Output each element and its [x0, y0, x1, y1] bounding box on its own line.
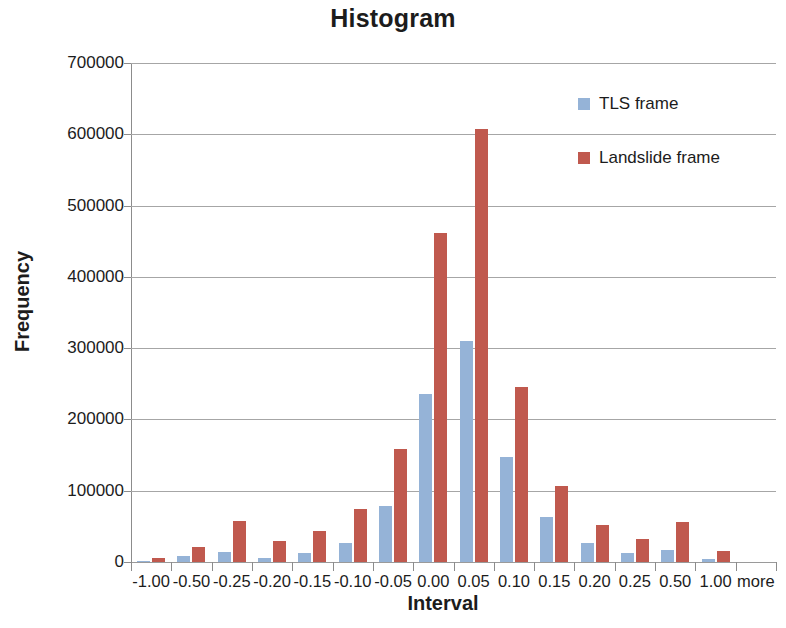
y-axis-tick-mark: [124, 348, 131, 349]
bar-landslide-frame: [515, 387, 528, 562]
bar-landslide-frame: [192, 547, 205, 562]
x-axis-tick-mark: [736, 562, 737, 571]
x-axis-tick-mark: [413, 562, 414, 571]
bar-tls-frame: [540, 517, 553, 562]
y-axis-tick-label: 700000: [28, 53, 124, 73]
x-axis-tick-mark: [534, 562, 535, 571]
x-axis-tick-mark: [333, 562, 334, 571]
bar-tls-frame: [460, 341, 473, 562]
bar-tls-frame: [339, 543, 352, 562]
bar-landslide-frame: [394, 449, 407, 562]
x-axis-tick-mark: [695, 562, 696, 571]
legend-label: Landslide frame: [599, 148, 720, 168]
x-axis-tick-mark: [776, 562, 777, 571]
bar-group: [494, 63, 534, 562]
x-axis-tick-label: 1.00: [699, 572, 731, 591]
bar-landslide-frame: [555, 486, 568, 562]
bar-group: [534, 63, 574, 562]
x-axis-tick-label: more: [737, 572, 775, 591]
y-axis-tick-mark: [124, 134, 131, 135]
y-axis-tick-mark: [124, 419, 131, 420]
y-axis-tick-label: 400000: [28, 267, 124, 287]
y-axis-tick-mark: [124, 562, 131, 563]
x-axis-tick-label: -0.50: [173, 572, 211, 591]
bar-landslide-frame: [717, 551, 730, 562]
bar-landslide-frame: [475, 129, 488, 562]
x-axis-tick-marks: [131, 562, 776, 572]
x-axis-tick-label: 0.20: [579, 572, 611, 591]
bar-landslide-frame: [354, 509, 367, 562]
bar-tls-frame: [621, 553, 634, 562]
x-axis-tick-mark: [373, 562, 374, 571]
x-axis-tick-mark: [131, 562, 132, 571]
y-axis-tick-label: 100000: [28, 481, 124, 501]
x-axis-tick-mark: [212, 562, 213, 571]
bar-landslide-frame: [313, 531, 326, 562]
y-axis-tick-labels: 0100000200000300000400000500000600000700…: [20, 63, 124, 562]
x-axis-tick-label: 0.10: [498, 572, 530, 591]
x-axis-tick-label: -0.05: [374, 572, 412, 591]
x-axis-tick-mark: [655, 562, 656, 571]
y-axis-tick-label: 0: [28, 552, 124, 572]
bar-group: [333, 63, 373, 562]
bar-group: [454, 63, 494, 562]
y-axis-tick-mark: [124, 206, 131, 207]
bar-tls-frame: [298, 553, 311, 562]
bar-landslide-frame: [636, 539, 649, 562]
x-axis-tick-mark: [454, 562, 455, 571]
bar-group: [171, 63, 211, 562]
x-axis-tick-mark: [252, 562, 253, 571]
y-axis-tick-mark: [124, 491, 131, 492]
y-axis-tick-mark: [124, 63, 131, 64]
x-axis-tick-mark: [615, 562, 616, 571]
legend-swatch-icon: [578, 152, 590, 164]
bar-tls-frame: [419, 394, 432, 562]
y-axis-tick-label: 300000: [28, 338, 124, 358]
bar-group: [373, 63, 413, 562]
x-axis-tick-mark: [574, 562, 575, 571]
bar-group: [212, 63, 252, 562]
chart-title: Histogram: [0, 4, 786, 33]
y-axis-tick-label: 600000: [28, 124, 124, 144]
histogram-chart: Histogram Frequency 01000002000003000004…: [0, 0, 786, 628]
x-axis-tick-label: 0.50: [659, 572, 691, 591]
bar-group: [413, 63, 453, 562]
bar-landslide-frame: [676, 522, 689, 562]
bar-group: [252, 63, 292, 562]
legend-label: TLS frame: [599, 94, 678, 114]
x-axis-tick-label: 0.05: [458, 572, 490, 591]
x-axis-tick-label: -0.25: [213, 572, 251, 591]
y-axis-tick-label: 200000: [28, 409, 124, 429]
bar-tls-frame: [581, 543, 594, 562]
y-axis-tick-mark: [124, 277, 131, 278]
bar-tls-frame: [218, 552, 231, 562]
bar-landslide-frame: [273, 541, 286, 562]
x-axis-tick-label: -1.00: [132, 572, 170, 591]
x-axis-tick-label: 0.00: [417, 572, 449, 591]
x-axis-title: Interval: [120, 592, 766, 615]
legend-entry: TLS frame: [578, 94, 768, 114]
bar-landslide-frame: [596, 525, 609, 562]
x-axis-tick-mark: [494, 562, 495, 571]
x-axis-tick-mark: [171, 562, 172, 571]
bar-tls-frame: [661, 550, 674, 562]
bar-landslide-frame: [434, 233, 447, 562]
legend-swatch-icon: [578, 98, 590, 110]
legend-entry: Landslide frame: [578, 148, 768, 168]
x-axis-tick-label: 0.25: [619, 572, 651, 591]
x-axis-tick-label: 0.15: [538, 572, 570, 591]
bar-landslide-frame: [233, 521, 246, 562]
x-axis-tick-mark: [292, 562, 293, 571]
bar-tls-frame: [500, 457, 513, 563]
bar-tls-frame: [379, 506, 392, 562]
x-axis-tick-label: -0.15: [294, 572, 332, 591]
bar-group: [292, 63, 332, 562]
x-axis-tick-label: -0.20: [253, 572, 291, 591]
y-axis-tick-label: 500000: [28, 196, 124, 216]
chart-legend: TLS frameLandslide frame: [578, 94, 768, 202]
x-axis-tick-label: -0.10: [334, 572, 372, 591]
bar-group: [131, 63, 171, 562]
